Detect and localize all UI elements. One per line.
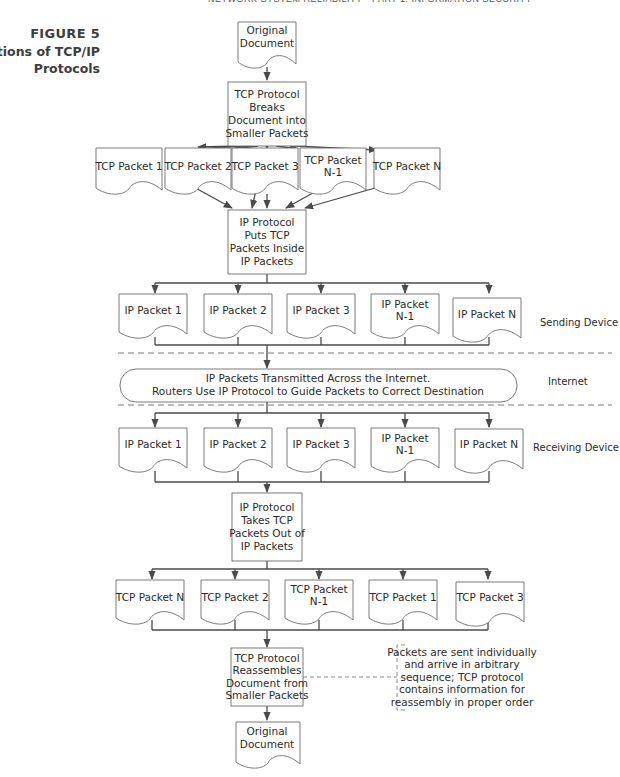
internet-description: IP Packets Transmitted Across the Intern…	[206, 372, 431, 384]
ip-packet-recv-label: IP Packet 2	[209, 438, 266, 450]
side-label-internet: Internet	[548, 376, 588, 387]
tcp-packet-send-label: N-1	[324, 166, 342, 178]
annotation-text: Packets are sent individually	[387, 646, 537, 658]
ip-packet-send-1	[119, 294, 187, 338]
ip-protocol-puts-label: Puts TCP	[244, 229, 289, 241]
ip-protocol-takes-label: Packets Out of	[229, 527, 305, 539]
ip-protocol-takes-label: Takes TCP	[240, 514, 293, 526]
annotation-text: and arrive in arbitrary	[404, 658, 520, 670]
ip-packet-recv-label: IP Packet N	[460, 438, 518, 450]
tcp-packet-recv-label: N-1	[310, 595, 328, 607]
ip-packet-recv-2	[204, 428, 272, 472]
ip-packet-send-label: IP Packet N	[458, 308, 516, 320]
tcp-protocol-reassembles-label: Reassembles	[233, 664, 302, 676]
side-label-sending: Sending Device	[540, 317, 618, 328]
ip-packet-send-label: IP Packet 3	[292, 304, 349, 316]
ip-packet-recv-label: IP Packet	[381, 432, 428, 444]
ip-packet-recv-label: IP Packet 3	[292, 438, 349, 450]
tcp-protocol-breaks-label: Breaks	[249, 101, 285, 113]
annotation-text: contains information for	[399, 683, 526, 695]
ip-protocol-takes-label: IP Packets	[241, 540, 294, 552]
original-document-top-label: Original	[246, 24, 287, 36]
tcp-protocol-reassembles-label: Smaller Packets	[225, 689, 308, 701]
annotation-text: reassembly in proper order	[391, 696, 534, 708]
ip-packet-recv-label: IP Packet 1	[124, 438, 181, 450]
tcp-packet-send-label: TCP Packet N	[372, 160, 441, 172]
internet-description: Routers Use IP Protocol to Guide Packets…	[152, 385, 484, 397]
tcp-protocol-reassembles-label: TCP Protocol	[233, 652, 299, 664]
tcp-packet-send-label: TCP Packet	[303, 154, 361, 166]
ip-protocol-puts-label: IP Protocol	[239, 216, 294, 228]
ip-packet-send-5	[453, 298, 521, 342]
ip-packet-recv-1	[119, 428, 187, 472]
tcp-packet-send-label: TCP Packet 3	[230, 160, 298, 172]
ip-packet-recv-label: N-1	[396, 444, 414, 456]
tcp-protocol-reassembles-label: Document from	[226, 677, 308, 689]
original-document-bottom-label: Original	[246, 725, 287, 737]
ip-packet-send-2	[204, 294, 272, 338]
ip-packet-recv-3	[287, 428, 355, 472]
tcp-packet-send-label: TCP Packet 1	[94, 160, 162, 172]
original-document-bottom-label: Document	[240, 738, 294, 750]
ip-packet-send-label: IP Packet 1	[124, 304, 181, 316]
tcp-packet-recv-label: TCP Packet 1	[368, 591, 436, 603]
ip-packet-send-label: IP Packet 2	[209, 304, 266, 316]
ip-protocol-puts-label: Packets Inside	[230, 242, 304, 254]
original-document-top-label: Document	[240, 37, 294, 49]
ip-protocol-puts-label: IP Packets	[241, 255, 294, 267]
tcp-protocol-breaks-label: Document into	[228, 114, 306, 126]
annotation-text: sequence; TCP protocol	[400, 671, 523, 683]
ip-packet-send-label: N-1	[396, 310, 414, 322]
tcp-packet-send-label: TCP Packet 2	[163, 160, 231, 172]
tcp-packet-recv-label: TCP Packet 2	[200, 591, 268, 603]
tcp-protocol-breaks-label: TCP Protocol	[233, 88, 299, 100]
ip-protocol-takes-label: IP Protocol	[239, 501, 294, 513]
ip-packet-send-3	[287, 294, 355, 338]
ip-packet-recv-5	[455, 429, 523, 473]
tcp-packet-recv-label: TCP Packet	[289, 583, 347, 595]
tcp-ip-flow-diagram: OriginalDocumentTCP ProtocolBreaksDocume…	[0, 0, 620, 777]
tcp-packet-recv-label: TCP Packet 3	[455, 591, 523, 603]
tcp-protocol-breaks-label: Smaller Packets	[225, 127, 308, 139]
side-label-receiving: Receiving Device	[533, 442, 619, 453]
ip-packet-send-label: IP Packet	[381, 298, 428, 310]
tcp-packet-recv-5	[456, 582, 524, 626]
tcp-packet-recv-label: TCP Packet N	[115, 591, 184, 603]
